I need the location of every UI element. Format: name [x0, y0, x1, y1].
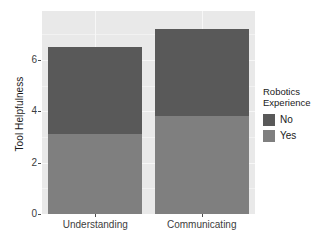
legend-swatch-yes	[263, 130, 275, 142]
bar-segment-understanding-no	[48, 47, 142, 134]
legend: Robotics Experience NoYes	[263, 86, 331, 144]
bar-segment-communicating-no	[155, 29, 249, 116]
y-tick-mark	[38, 214, 41, 215]
plot-panel	[42, 11, 255, 214]
bar-group-communicating	[155, 11, 249, 214]
bar-segment-understanding-yes	[48, 134, 142, 214]
y-axis	[22, 0, 42, 243]
legend-title: Robotics Experience	[263, 86, 331, 108]
chart-container: Tool Helpfulness Robotics Experience NoY…	[0, 0, 333, 243]
legend-item-yes[interactable]: Yes	[263, 128, 331, 143]
legend-swatch-no	[263, 114, 275, 126]
x-tick-mark	[202, 214, 203, 217]
bar-segment-communicating-yes	[155, 116, 249, 214]
x-tick-label-communicating: Communicating	[152, 219, 252, 230]
x-tick-label-understanding: Understanding	[45, 219, 145, 230]
y-tick-mark	[38, 163, 41, 164]
x-tick-mark	[95, 214, 96, 217]
bar-group-understanding	[48, 11, 142, 214]
y-tick-label: 0	[20, 208, 37, 220]
legend-label-no: No	[280, 114, 293, 126]
y-tick-label: 4	[20, 105, 37, 117]
y-tick-label: 6	[20, 54, 37, 66]
legend-item-no[interactable]: No	[263, 112, 331, 127]
legend-entries: NoYes	[263, 112, 331, 143]
y-tick-mark	[38, 111, 41, 112]
y-tick-mark	[38, 60, 41, 61]
legend-label-yes: Yes	[280, 130, 296, 142]
y-tick-label: 2	[20, 157, 37, 169]
